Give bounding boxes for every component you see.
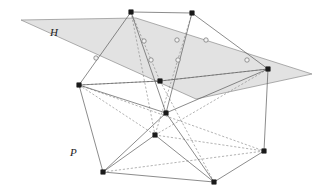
projected-vertex-h4 xyxy=(175,38,179,42)
projected-vertex-h2 xyxy=(142,39,146,43)
visible-edge-7 xyxy=(79,85,166,113)
visible-edge-12 xyxy=(214,151,264,182)
polytope-vertex-b3 xyxy=(262,149,266,153)
projected-vertex-h7 xyxy=(245,58,249,62)
polytope-label: P xyxy=(69,146,77,158)
hidden-edge-8 xyxy=(79,85,264,151)
visible-edge-14 xyxy=(166,113,214,182)
polytope-vertex-t2 xyxy=(190,11,194,15)
hidden-edge-7 xyxy=(103,151,264,172)
polytope-vertex-b2 xyxy=(212,180,216,184)
polytope-vertex-c2 xyxy=(153,133,157,137)
projected-vertex-h6 xyxy=(204,38,208,42)
hyperplane-plane xyxy=(21,18,312,99)
hyperplane-label: H xyxy=(49,26,59,38)
visible-edge-11 xyxy=(103,172,214,182)
geometric-figure: H P xyxy=(0,0,332,193)
visible-edge-0 xyxy=(131,12,192,13)
polytope-vertex-b1 xyxy=(101,170,105,174)
projected-vertex-h3 xyxy=(149,58,153,62)
polytope-vertex-m1 xyxy=(158,79,162,83)
projected-vertex-h5 xyxy=(176,58,180,62)
hidden-edge-4 xyxy=(155,135,264,151)
hyperplane-polygon xyxy=(21,18,312,99)
visible-edge-5 xyxy=(79,81,160,85)
polytope-vertex-t1 xyxy=(129,10,133,14)
projected-vertex-h1 xyxy=(94,56,98,60)
polytope-vertex-l1 xyxy=(77,83,81,87)
polytope-vertex-r1 xyxy=(266,67,270,71)
visible-edge-13 xyxy=(103,113,166,172)
polytope-vertex-c1 xyxy=(164,111,168,115)
visible-edge-16 xyxy=(155,135,214,182)
diagram-canvas: H P xyxy=(0,0,332,193)
